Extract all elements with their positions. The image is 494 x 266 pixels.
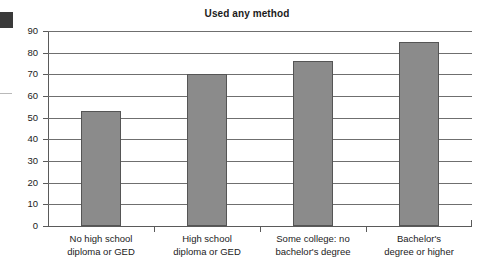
x-tick-mark-1: [154, 226, 155, 232]
y-tick-mark-30: [43, 161, 48, 162]
y-tick-label-10: 10: [8, 199, 38, 208]
y-tick-label-80: 80: [8, 48, 38, 57]
y-tick-label-90: 90: [8, 26, 38, 35]
x-category-label-line: Some college: no: [260, 233, 366, 246]
x-category-label-line: diploma or GED: [48, 246, 154, 259]
x-category-label-line: Bachelor's: [366, 233, 472, 246]
y-tick-mark-60: [43, 96, 48, 97]
y-tick-mark-50: [43, 118, 48, 119]
y-tick-label-20: 20: [8, 178, 38, 187]
y-tick-mark-70: [43, 74, 48, 75]
y-tick-mark-80: [43, 53, 48, 54]
y-tick-label-50: 50: [8, 113, 38, 122]
x-category-label-line: No high school: [48, 233, 154, 246]
chart-title: Used any method: [0, 8, 494, 19]
x-category-label-line: degree or higher: [366, 246, 472, 259]
gridline-90: [48, 31, 472, 32]
x-tick-mark-2: [260, 226, 261, 232]
x-category-label-line: diploma or GED: [154, 246, 260, 259]
x-category-label-line: bachelor's degree: [260, 246, 366, 259]
x-category-label-3: Bachelor'sdegree or higher: [366, 233, 472, 258]
plot-area: [48, 31, 472, 226]
y-tick-mark-10: [43, 204, 48, 205]
y-tick-mark-20: [43, 183, 48, 184]
x-category-label-2: Some college: nobachelor's degree: [260, 233, 366, 258]
y-tick-mark-40: [43, 139, 48, 140]
bar-3: [399, 42, 439, 226]
x-tick-mark-3: [366, 226, 367, 232]
y-tick-label-70: 70: [8, 69, 38, 78]
y-tick-mark-0: [43, 226, 48, 227]
x-category-label-line: High school: [154, 233, 260, 246]
y-tick-label-40: 40: [8, 134, 38, 143]
y-tick-label-0: 0: [8, 221, 38, 230]
y-tick-mark-90: [43, 31, 48, 32]
bar-1: [187, 74, 227, 226]
y-tick-label-30: 30: [8, 156, 38, 165]
bar-2: [293, 61, 333, 226]
x-category-label-1: High schooldiploma or GED: [154, 233, 260, 258]
x-category-label-0: No high schooldiploma or GED: [48, 233, 154, 258]
y-tick-label-60: 60: [8, 91, 38, 100]
bar-0: [81, 111, 121, 226]
